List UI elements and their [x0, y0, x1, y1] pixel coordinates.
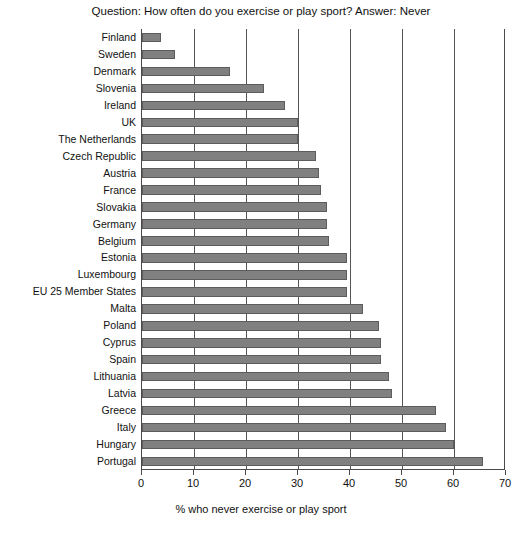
bar-row [142, 436, 504, 453]
bar-row [142, 114, 504, 131]
y-axis-label-poland: Poland [0, 320, 136, 331]
bar [142, 134, 298, 144]
bar [142, 33, 161, 43]
bar [142, 185, 321, 195]
y-axis-label-ireland: Ireland [0, 100, 136, 111]
bar [142, 321, 379, 331]
x-axis-tick-labels: 010203040506070 [0, 477, 522, 493]
y-axis-label-finland: Finland [0, 32, 136, 43]
bar [142, 253, 347, 263]
chart-title: Question: How often do you exercise or p… [0, 4, 522, 18]
x-tick-label-70: 70 [485, 477, 522, 490]
y-axis-label-uk: UK [0, 117, 136, 128]
y-axis-label-cyprus: Cyprus [0, 337, 136, 348]
bar [142, 457, 483, 467]
bar [142, 287, 347, 297]
x-axis-tick-marks [141, 470, 505, 476]
y-axis-label-denmark: Denmark [0, 66, 136, 77]
y-axis-label-lithuania: Lithuania [0, 371, 136, 382]
y-axis-label-latvia: Latvia [0, 388, 136, 399]
bar-row [142, 385, 504, 402]
x-tick-label-0: 0 [121, 477, 161, 490]
tick-mark-60 [453, 470, 454, 475]
y-axis-label-estonia: Estonia [0, 252, 136, 263]
bar [142, 236, 329, 246]
y-axis-label-sweden: Sweden [0, 49, 136, 60]
bar-row [142, 283, 504, 300]
x-tick-label-60: 60 [433, 477, 473, 490]
bar-row [142, 80, 504, 97]
bar [142, 151, 316, 161]
bar [142, 84, 264, 94]
x-tick-label-40: 40 [329, 477, 369, 490]
y-axis-label-the-netherlands: The Netherlands [0, 134, 136, 145]
bar-row [142, 266, 504, 283]
tick-mark-0 [141, 470, 142, 475]
y-axis-label-slovenia: Slovenia [0, 83, 136, 94]
x-tick-label-10: 10 [173, 477, 213, 490]
bars-layer [142, 29, 504, 469]
y-axis-label-czech-republic: Czech Republic [0, 151, 136, 162]
bar-row [142, 233, 504, 250]
bar-row [142, 334, 504, 351]
y-axis-label-portugal: Portugal [0, 456, 136, 467]
y-axis-label-spain: Spain [0, 354, 136, 365]
tick-mark-30 [297, 470, 298, 475]
x-tick-label-20: 20 [225, 477, 265, 490]
bar-row [142, 453, 504, 470]
bar [142, 355, 381, 365]
bar [142, 338, 381, 348]
y-axis-label-greece: Greece [0, 405, 136, 416]
bar-row [142, 199, 504, 216]
bar-row [142, 46, 504, 63]
tick-mark-50 [401, 470, 402, 475]
bar-row [142, 368, 504, 385]
bar-row [142, 216, 504, 233]
y-axis-label-eu-25-member-states: EU 25 Member States [0, 286, 136, 297]
bar-row [142, 29, 504, 46]
bar-row [142, 351, 504, 368]
bar-row [142, 131, 504, 148]
bar-chart: Question: How often do you exercise or p… [0, 0, 522, 533]
bar-row [142, 300, 504, 317]
bar-row [142, 63, 504, 80]
bar-row [142, 250, 504, 267]
bar [142, 202, 327, 212]
bar-row [142, 97, 504, 114]
y-axis-label-italy: Italy [0, 422, 136, 433]
y-axis-label-hungary: Hungary [0, 439, 136, 450]
x-tick-label-30: 30 [277, 477, 317, 490]
bar-row [142, 165, 504, 182]
tick-mark-40 [349, 470, 350, 475]
y-axis-label-malta: Malta [0, 303, 136, 314]
bar [142, 389, 392, 399]
y-axis-label-luxembourg: Luxembourg [0, 269, 136, 280]
bar [142, 67, 230, 77]
y-axis-label-austria: Austria [0, 168, 136, 179]
plot-area [141, 29, 505, 470]
y-axis-label-germany: Germany [0, 219, 136, 230]
bar [142, 304, 363, 314]
tick-mark-10 [193, 470, 194, 475]
bar [142, 423, 446, 433]
bar-row [142, 148, 504, 165]
x-axis-title: % who never exercise or play sport [0, 503, 522, 516]
bar [142, 406, 436, 416]
bar [142, 270, 347, 280]
x-tick-label-50: 50 [381, 477, 421, 490]
tick-mark-70 [505, 470, 506, 475]
bar-row [142, 182, 504, 199]
y-axis-label-slovakia: Slovakia [0, 202, 136, 213]
y-axis-label-france: France [0, 185, 136, 196]
bar [142, 219, 327, 229]
bar [142, 50, 175, 60]
y-axis-label-belgium: Belgium [0, 236, 136, 247]
bar [142, 372, 389, 382]
bar-row [142, 317, 504, 334]
y-axis-category-labels: FinlandSwedenDenmarkSloveniaIrelandUKThe… [0, 29, 136, 470]
bar [142, 101, 285, 111]
bar [142, 168, 319, 178]
bar-row [142, 419, 504, 436]
bar [142, 118, 298, 128]
tick-mark-20 [245, 470, 246, 475]
